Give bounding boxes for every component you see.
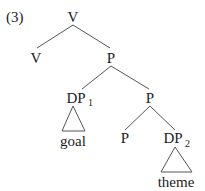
- dp2-triangle: [161, 147, 192, 172]
- node-p-upper: P: [107, 50, 115, 66]
- edge-p-lower-to-p-head: [125, 106, 150, 130]
- syntax-tree-diagram: (3) V V P DP 1 goal P P DP 2 theme: [0, 0, 205, 191]
- edge-p-to-p-lower: [111, 66, 149, 89]
- dp1-triangle: [62, 106, 85, 131]
- node-root-v: V: [68, 9, 79, 25]
- edge-p-lower-to-dp2: [150, 106, 175, 130]
- example-number: (3): [6, 9, 24, 26]
- dp1-content-goal: goal: [60, 133, 86, 149]
- edge-root-to-p: [73, 25, 110, 48]
- edge-p-to-dp1: [82, 66, 111, 89]
- dp1-subscript: 1: [88, 97, 93, 108]
- node-p-lower: P: [146, 90, 154, 106]
- dp2-subscript: 2: [185, 138, 190, 149]
- node-v-head: V: [31, 50, 42, 66]
- dp2-content-theme: theme: [158, 174, 195, 190]
- node-dp1: DP: [66, 90, 85, 106]
- node-p-head: P: [121, 130, 129, 146]
- node-dp2: DP: [163, 130, 182, 146]
- edge-root-to-v: [37, 25, 73, 48]
